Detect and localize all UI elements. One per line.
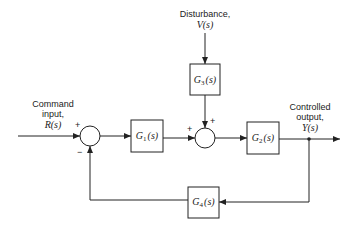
block-diagram: Command input, R(s) + − G1(s) Disturbanc… bbox=[0, 0, 354, 230]
block-g3: G3(s) bbox=[190, 64, 220, 95]
sum2-top-plus-sign: + bbox=[210, 116, 215, 126]
arrow-icon bbox=[202, 57, 208, 64]
arrow-icon bbox=[188, 135, 195, 141]
command-input-symbol: R(s) bbox=[44, 119, 62, 131]
arrow-icon bbox=[202, 121, 208, 128]
controlled-output-line2: output, bbox=[296, 112, 324, 122]
sum1-plus-sign: + bbox=[75, 120, 80, 130]
block-g1: G1(s) bbox=[131, 120, 163, 152]
arrow-icon bbox=[219, 199, 226, 205]
summing-junction-1 bbox=[80, 126, 100, 146]
arrow-icon bbox=[240, 135, 247, 141]
disturbance-symbol: V(s) bbox=[197, 19, 214, 31]
block-g4: G4(s) bbox=[188, 187, 219, 218]
disturbance-label: Disturbance, V(s) bbox=[180, 9, 231, 31]
command-input-line1: Command bbox=[32, 99, 74, 109]
arrow-icon bbox=[333, 136, 340, 142]
command-input-label: Command input, R(s) bbox=[32, 99, 74, 131]
summing-junction-2 bbox=[195, 128, 215, 148]
command-input-line2: input, bbox=[42, 109, 64, 119]
controlled-output-label: Controlled output, Y(s) bbox=[289, 102, 330, 134]
block-g2: G2(s) bbox=[247, 122, 279, 154]
feedback-line-left bbox=[90, 146, 188, 200]
controlled-output-symbol: Y(s) bbox=[302, 122, 319, 134]
sum1-minus-sign: − bbox=[77, 147, 82, 157]
disturbance-line1: Disturbance, bbox=[180, 9, 231, 19]
sum2-left-plus-sign: + bbox=[187, 124, 192, 134]
arrow-icon bbox=[124, 133, 131, 139]
arrow-icon bbox=[87, 146, 93, 153]
arrow-icon bbox=[73, 133, 80, 139]
controlled-output-line1: Controlled bbox=[289, 102, 330, 112]
